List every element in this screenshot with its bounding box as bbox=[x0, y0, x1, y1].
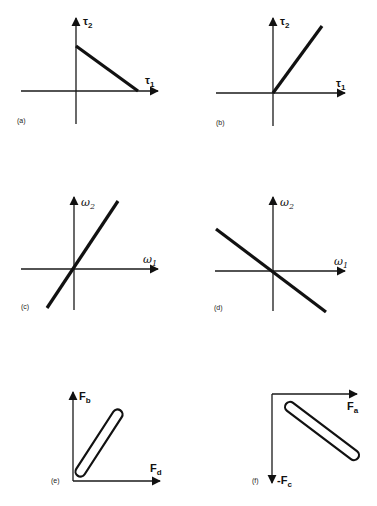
y-axis-label: τ2 bbox=[280, 16, 289, 30]
panel-caption: (f) bbox=[252, 477, 259, 484]
panel-caption: (c) bbox=[21, 303, 29, 310]
x-axis-label: ω1 bbox=[334, 256, 348, 270]
curve-line bbox=[273, 26, 322, 93]
panel-b bbox=[216, 18, 345, 126]
panel-caption: (e) bbox=[51, 477, 60, 484]
x-axis-label: ω1 bbox=[143, 254, 157, 268]
y-axis-label: ω2 bbox=[280, 197, 294, 211]
y-axis-label: τ2 bbox=[83, 16, 92, 30]
curve-line bbox=[47, 201, 118, 308]
panel-e bbox=[73, 392, 160, 481]
y-axis-label: ω2 bbox=[81, 197, 95, 211]
x-axis-label: Fd bbox=[150, 463, 162, 477]
curve-line bbox=[76, 46, 138, 91]
panel-caption: (b) bbox=[216, 119, 225, 126]
x-axis-label: Fa bbox=[347, 401, 358, 415]
x-axis-label: τ1 bbox=[145, 75, 154, 89]
y-axis-label: Fb bbox=[79, 391, 91, 405]
diagram-canvas bbox=[0, 0, 377, 506]
panel-caption: (a) bbox=[17, 117, 26, 124]
panel-c bbox=[21, 197, 158, 310]
panel-caption: (d) bbox=[214, 304, 223, 311]
y-axis-label: -Fc bbox=[277, 475, 292, 489]
x-axis-label: τ1 bbox=[336, 78, 345, 92]
panel-d bbox=[215, 197, 345, 312]
panel-a bbox=[21, 18, 158, 124]
hysteresis-loop bbox=[74, 408, 125, 479]
